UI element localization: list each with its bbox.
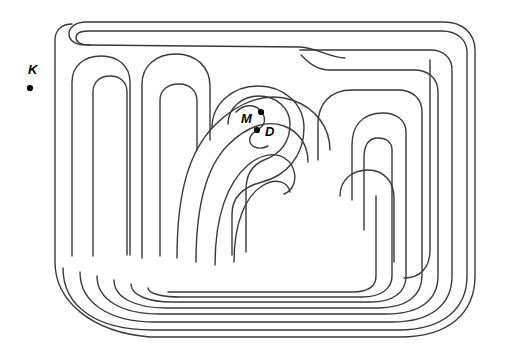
marker-dot-M	[258, 109, 264, 115]
marker-dot-K	[27, 85, 33, 91]
marker-label-K: K	[28, 62, 39, 77]
marker-label-D: D	[265, 124, 275, 139]
marker-label-M: M	[241, 111, 253, 126]
labyrinth-drawing: KMD	[0, 0, 509, 354]
labyrinth-figure: KMD	[0, 0, 509, 354]
marker-dot-D	[254, 127, 260, 133]
figure-background	[0, 0, 509, 354]
